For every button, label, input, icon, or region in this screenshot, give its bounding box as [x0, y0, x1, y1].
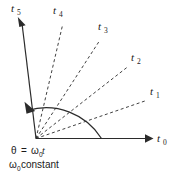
caption-equals-sign: = [21, 145, 27, 156]
label-t2-subscript: 2 [137, 57, 141, 66]
ray-t5-arrowhead [18, 17, 26, 27]
label-t2: t 2 [131, 51, 141, 66]
horizontal-axis-arrowhead [145, 134, 154, 142]
label-t1-subscript: 1 [156, 91, 160, 100]
horizontal-axis-group [36, 134, 154, 142]
label-t0: t 0 [157, 132, 167, 147]
label-t0-subscript: 0 [163, 138, 167, 147]
ray-t1-line [36, 101, 146, 139]
caption-omega-symbol: ω [31, 145, 39, 156]
label-t1: t 1 [150, 85, 160, 100]
label-t4-base: t [53, 4, 57, 16]
label-t4: t 4 [53, 4, 63, 19]
label-t5: t 5 [11, 2, 21, 17]
caption2-omega-symbol: ω [9, 159, 17, 170]
theta-arc-arrowhead [25, 102, 36, 114]
ray-t4-line [36, 25, 63, 139]
label-t0-base: t [157, 132, 161, 144]
caption2-constant-word: constant [21, 159, 59, 170]
ray-t5-line [22, 25, 36, 139]
ray-t2-group [36, 67, 128, 139]
ray-t5-group [18, 17, 36, 139]
ray-t4-group [36, 25, 63, 139]
label-t3: t 3 [98, 20, 108, 35]
caption-line-1: θ = ω 0 t [11, 145, 45, 158]
label-t5-base: t [11, 2, 15, 14]
caption-line-2: ω 0 constant [9, 159, 59, 172]
label-t5-subscript: 5 [17, 8, 21, 17]
ray-t2-line [36, 67, 128, 139]
diagram-canvas: t 0 t 1 t 2 t 3 t 4 t 5 θ = ω 0 t [0, 0, 174, 174]
ray-t1-group [36, 101, 146, 139]
angle-diagram-figure: t 0 t 1 t 2 t 3 t 4 t 5 θ = ω 0 t [0, 0, 174, 174]
theta-sweep-arc [28, 108, 102, 139]
label-t1-base: t [150, 85, 154, 97]
label-t3-base: t [98, 20, 102, 32]
label-t4-subscript: 4 [59, 10, 63, 19]
label-t2-base: t [131, 51, 135, 63]
caption-time-symbol: t [42, 145, 45, 156]
caption-theta-symbol: θ [11, 145, 17, 156]
label-t3-subscript: 3 [104, 26, 108, 35]
